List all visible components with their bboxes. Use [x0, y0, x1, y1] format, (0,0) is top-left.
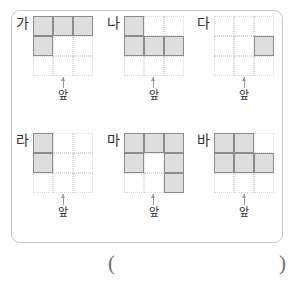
arrow-up-icon	[63, 77, 64, 88]
arrow-up-icon	[244, 77, 245, 88]
cube-grid	[214, 16, 274, 76]
grid-cell-empty	[33, 173, 53, 193]
grid-cell-empty	[73, 36, 93, 56]
grid-cell-empty	[53, 56, 73, 76]
cube-grid	[33, 133, 93, 193]
answer-blank: ( )	[0, 248, 296, 281]
front-label: 앞	[33, 89, 93, 102]
figure-라: 라앞	[12, 128, 103, 245]
grid-cell-empty	[254, 56, 274, 76]
paren-open: (	[108, 248, 115, 278]
grid-cell-filled	[214, 133, 234, 153]
grid-cell-filled	[33, 16, 53, 36]
grid-cell-empty	[164, 16, 184, 36]
grid-cell-filled	[53, 16, 73, 36]
figure-label: 나	[107, 16, 120, 30]
figure-label: 다	[197, 16, 210, 30]
grid-cell-empty	[73, 153, 93, 173]
figure-label: 바	[197, 133, 210, 147]
front-direction: 앞	[33, 194, 93, 219]
arrow-up-icon	[153, 77, 154, 88]
front-direction: 앞	[214, 77, 274, 102]
grid-cell-empty	[33, 56, 53, 76]
front-direction: 앞	[124, 77, 184, 102]
paren-close: )	[279, 248, 286, 278]
grid-cell-empty	[144, 56, 164, 76]
grid-cell-empty	[53, 36, 73, 56]
grid-cell-filled	[214, 153, 234, 173]
grid-cell-empty	[254, 133, 274, 153]
cube-grid	[124, 16, 184, 76]
grid-cell-filled	[254, 153, 274, 173]
grid-cell-filled	[254, 36, 274, 56]
arrow-up-icon	[63, 194, 64, 205]
cube-grid	[124, 133, 184, 193]
grid-cell-empty	[73, 133, 93, 153]
grid-cell-filled	[234, 133, 254, 153]
figure-grid: 가앞나앞다앞라앞마앞바앞	[12, 11, 284, 244]
grid-cell-filled	[124, 36, 144, 56]
figure-나: 나앞	[103, 11, 194, 128]
figure-가: 가앞	[12, 11, 103, 128]
arrow-up-icon	[244, 194, 245, 205]
grid-cell-empty	[214, 16, 234, 36]
cube-grid	[33, 16, 93, 76]
cube-grid	[214, 133, 274, 193]
figure-label: 가	[16, 16, 29, 30]
grid-cell-empty	[124, 173, 144, 193]
figure-바: 바앞	[193, 128, 284, 245]
grid-cell-empty	[124, 56, 144, 76]
grid-cell-filled	[124, 153, 144, 173]
front-label: 앞	[33, 206, 93, 219]
grid-cell-empty	[234, 16, 254, 36]
front-label: 앞	[124, 206, 184, 219]
grid-cell-empty	[73, 173, 93, 193]
figure-label: 라	[16, 133, 29, 147]
grid-cell-empty	[53, 133, 73, 153]
figure-마: 마앞	[103, 128, 194, 245]
grid-cell-filled	[124, 16, 144, 36]
grid-cell-filled	[234, 153, 254, 173]
grid-cell-empty	[144, 16, 164, 36]
grid-cell-empty	[53, 153, 73, 173]
arrow-up-icon	[153, 194, 154, 205]
grid-cell-empty	[164, 56, 184, 76]
grid-cell-filled	[144, 133, 164, 153]
grid-cell-filled	[124, 133, 144, 153]
grid-cell-filled	[164, 173, 184, 193]
front-label: 앞	[124, 89, 184, 102]
front-direction: 앞	[214, 194, 274, 219]
grid-cell-filled	[33, 153, 53, 173]
figure-다: 다앞	[193, 11, 284, 128]
front-direction: 앞	[33, 77, 93, 102]
grid-cell-filled	[164, 153, 184, 173]
grid-cell-filled	[164, 36, 184, 56]
grid-cell-empty	[234, 36, 254, 56]
grid-cell-empty	[234, 173, 254, 193]
grid-cell-empty	[214, 36, 234, 56]
grid-cell-empty	[144, 153, 164, 173]
worksheet-panel: 가앞나앞다앞라앞마앞바앞	[11, 10, 283, 243]
grid-cell-empty	[254, 173, 274, 193]
grid-cell-filled	[144, 36, 164, 56]
grid-cell-empty	[234, 56, 254, 76]
grid-cell-empty	[53, 173, 73, 193]
grid-cell-empty	[214, 56, 234, 76]
figure-label: 마	[107, 133, 120, 147]
grid-cell-filled	[73, 16, 93, 36]
front-label: 앞	[214, 89, 274, 102]
grid-cell-filled	[164, 133, 184, 153]
front-label: 앞	[214, 206, 274, 219]
grid-cell-empty	[214, 173, 234, 193]
grid-cell-filled	[33, 36, 53, 56]
grid-cell-empty	[73, 56, 93, 76]
grid-cell-empty	[144, 173, 164, 193]
front-direction: 앞	[124, 194, 184, 219]
grid-cell-filled	[33, 133, 53, 153]
grid-cell-empty	[254, 16, 274, 36]
